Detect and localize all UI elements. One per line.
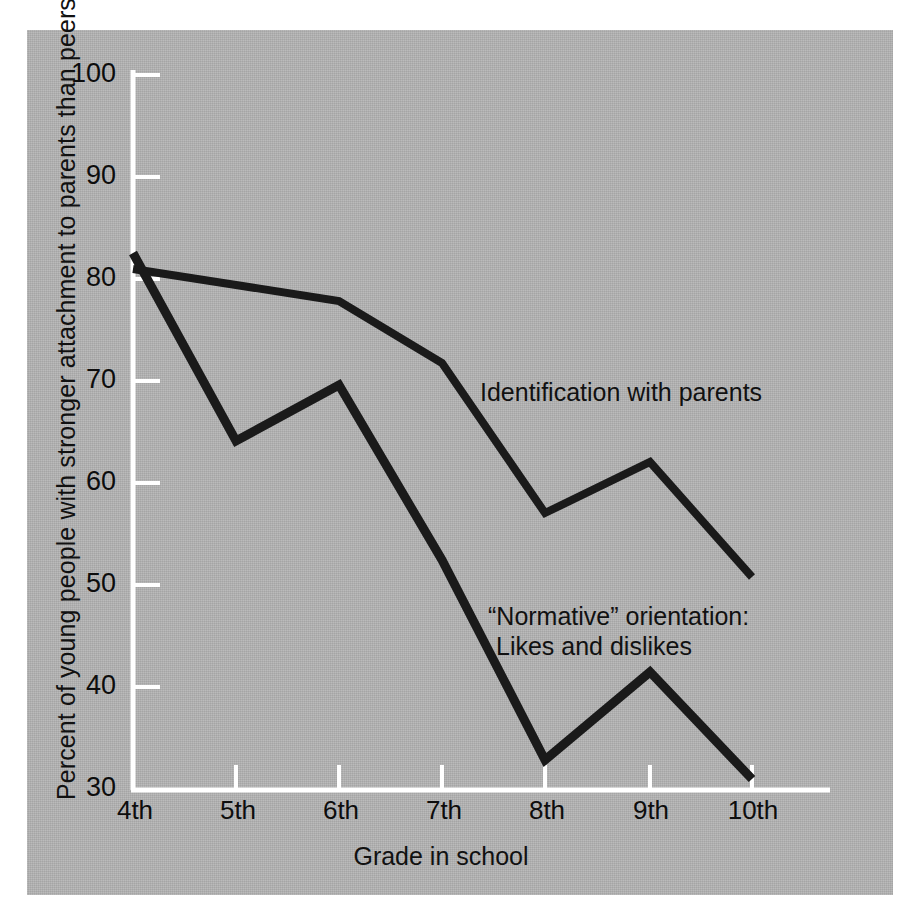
y-tick-label-60: 60 xyxy=(46,466,116,497)
x-tick-label-10th: 10th xyxy=(703,795,803,826)
chart-figure: Percent of young people with stronger at… xyxy=(0,0,918,921)
x-tick-label-8th: 8th xyxy=(497,795,597,826)
y-tick-label-100: 100 xyxy=(46,58,116,89)
x-tick-label-6th: 6th xyxy=(291,795,391,826)
x-tick-label-4th: 4th xyxy=(85,795,185,826)
x-tick-label-7th: 7th xyxy=(394,795,494,826)
x-axis-title: Grade in school xyxy=(241,842,641,871)
annotation-identification-with-parents: Identification with parents xyxy=(480,377,762,408)
x-tick-label-9th: 9th xyxy=(601,795,701,826)
y-tick-label-80: 80 xyxy=(46,262,116,293)
y-tick-label-90: 90 xyxy=(46,160,116,191)
annotation-normative-line-1: “Normative” orientation: xyxy=(488,601,749,632)
chart-plot-area xyxy=(0,0,918,921)
series-line-normative-orientation xyxy=(133,253,752,779)
x-tick-marks xyxy=(236,765,752,790)
annotation-normative-line-2: Likes and dislikes xyxy=(496,631,692,662)
y-tick-label-40: 40 xyxy=(46,670,116,701)
y-tick-label-50: 50 xyxy=(46,568,116,599)
y-tick-marks xyxy=(133,75,160,687)
y-tick-label-70: 70 xyxy=(46,364,116,395)
x-tick-label-5th: 5th xyxy=(188,795,288,826)
